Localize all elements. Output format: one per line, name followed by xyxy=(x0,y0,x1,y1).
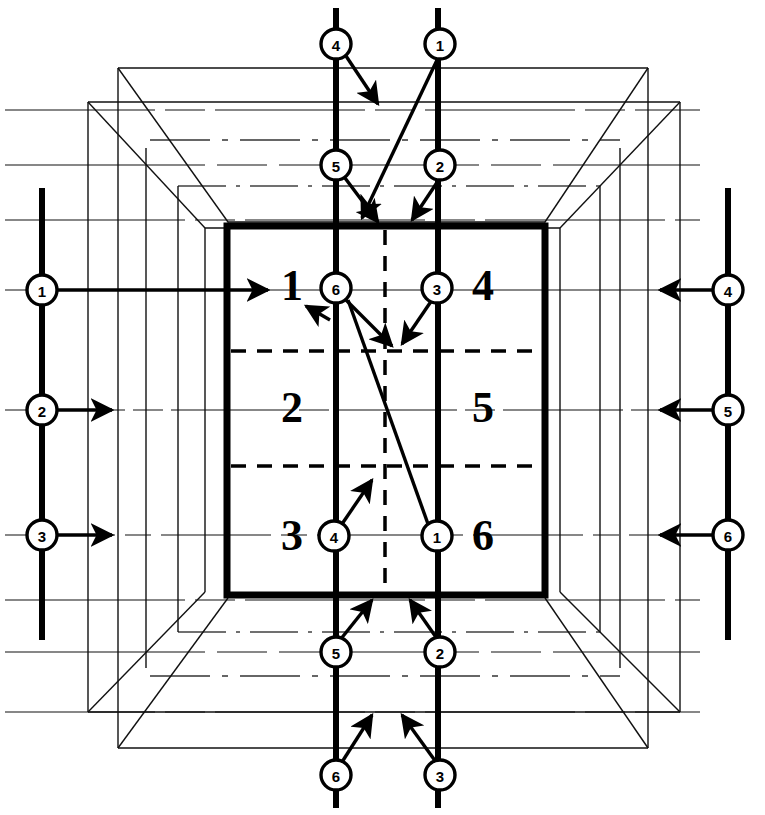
node-top-5[interactable]: 5 xyxy=(321,150,351,180)
node-label: 6 xyxy=(724,528,732,545)
arrow-center-3-down xyxy=(402,300,432,344)
node-right-6[interactable]: 6 xyxy=(713,520,743,550)
arrow-center-4-up xyxy=(342,480,372,524)
node-center-4[interactable]: 4 xyxy=(319,521,349,551)
node-label: 3 xyxy=(38,528,46,545)
cell-label-1: 1 xyxy=(281,261,303,310)
cell-label-2: 2 xyxy=(281,383,303,432)
node-left-2[interactable]: 2 xyxy=(27,395,57,425)
node-label: 3 xyxy=(436,768,444,785)
node-label: 4 xyxy=(724,283,733,300)
node-label: 4 xyxy=(330,529,339,546)
node-label: 5 xyxy=(724,403,732,420)
node-bottom-2[interactable]: 2 xyxy=(425,637,455,667)
node-top-1[interactable]: 1 xyxy=(425,29,455,59)
node-label: 1 xyxy=(433,529,441,546)
arrow-bottom-5 xyxy=(340,600,372,640)
node-top-4[interactable]: 4 xyxy=(321,29,351,59)
node-bottom-6[interactable]: 6 xyxy=(321,760,351,790)
node-center-6[interactable]: 6 xyxy=(321,273,351,303)
cell-label-3: 3 xyxy=(281,511,303,560)
perspective-room-diagram: 1 4 2 5 3 6 xyxy=(0,0,765,815)
node-right-4[interactable]: 4 xyxy=(713,275,743,305)
mapping-arrows xyxy=(58,56,712,762)
node-label: 2 xyxy=(38,403,46,420)
node-label: 4 xyxy=(332,37,341,54)
cell-label-6: 6 xyxy=(472,511,494,560)
node-bottom-3[interactable]: 3 xyxy=(425,760,455,790)
node-center-1[interactable]: 1 xyxy=(422,521,452,551)
arrow-bottom-3 xyxy=(402,715,436,762)
diagonal-6-to-1 xyxy=(348,300,428,524)
node-label: 1 xyxy=(38,283,46,300)
node-label: 6 xyxy=(332,281,340,298)
perspective-wireframe xyxy=(5,68,700,748)
node-label: 6 xyxy=(332,768,340,785)
node-label: 2 xyxy=(436,645,444,662)
node-right-5[interactable]: 5 xyxy=(713,395,743,425)
node-bottom-5[interactable]: 5 xyxy=(321,637,351,667)
node-label: 3 xyxy=(433,281,441,298)
arrow-bottom-2 xyxy=(410,600,438,640)
node-left-3[interactable]: 3 xyxy=(27,520,57,550)
node-label: 2 xyxy=(436,158,444,175)
node-top-2[interactable]: 2 xyxy=(425,150,455,180)
arrow-top-1-long xyxy=(362,58,438,218)
cell-label-4: 4 xyxy=(472,261,494,310)
node-label: 1 xyxy=(436,37,444,54)
cell-label-5: 5 xyxy=(472,383,494,432)
node-left-1[interactable]: 1 xyxy=(27,275,57,305)
diagram-canvas: 1 4 2 5 3 6 xyxy=(0,0,765,815)
node-center-3[interactable]: 3 xyxy=(422,273,452,303)
arrow-bottom-6 xyxy=(342,715,372,762)
node-label: 5 xyxy=(332,158,340,175)
node-label: 5 xyxy=(332,645,340,662)
arrow-6-upleft xyxy=(306,306,330,320)
arrow-top-4 xyxy=(346,56,378,104)
